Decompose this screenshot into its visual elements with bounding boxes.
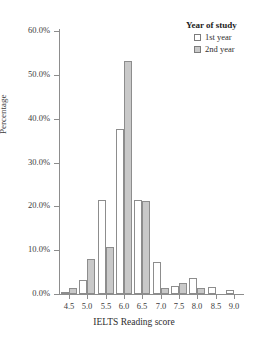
legend: Year of study 1st year2nd year: [186, 19, 262, 55]
legend-swatch-icon: [194, 46, 201, 53]
y-tick-label: 40.0%: [28, 113, 50, 124]
x-axis-label: IELTS Reading score: [0, 316, 268, 328]
y-tick-label: 0.0%: [32, 288, 50, 299]
bar: [106, 247, 114, 294]
bar: [142, 201, 150, 294]
y-tick-label: 60.0%: [28, 25, 50, 36]
bar: [98, 200, 106, 294]
bar: [79, 280, 87, 294]
legend-item: 1st year: [186, 32, 262, 43]
legend-label: 2nd year: [205, 44, 235, 55]
bar: [208, 287, 216, 294]
legend-entries: 1st year2nd year: [186, 32, 262, 55]
y-tick-label: 30.0%: [28, 157, 50, 168]
y-axis-label: Percentage: [0, 95, 9, 134]
bar: [61, 292, 69, 294]
x-tick-mark: [216, 294, 217, 299]
bar: [171, 286, 179, 294]
x-tick-mark: [69, 294, 70, 299]
plot-area: [60, 31, 243, 294]
bar: [179, 283, 187, 294]
legend-title: Year of study: [186, 19, 262, 31]
bar: [116, 129, 124, 294]
bar: [226, 290, 234, 294]
x-tick-mark: [179, 294, 180, 299]
legend-item: 2nd year: [186, 44, 262, 55]
y-tick-label: 10.0%: [28, 244, 50, 255]
bar: [134, 200, 142, 294]
bar: [87, 259, 95, 294]
chart-figure: 0.0%10.0%20.0%30.0%40.0%50.0%60.0% 4.55.…: [0, 0, 268, 345]
bar: [69, 288, 77, 294]
x-tick-mark: [124, 294, 125, 299]
x-tick-mark: [87, 294, 88, 299]
x-tick-label: 9.0: [221, 301, 247, 312]
cropped-title-fragment: [0, 0, 268, 5]
x-tick-mark: [106, 294, 107, 299]
x-tick-mark: [197, 294, 198, 299]
bar: [189, 278, 197, 294]
bar: [153, 262, 161, 294]
bar: [124, 61, 132, 294]
x-tick-mark: [142, 294, 143, 299]
bar: [197, 288, 205, 294]
y-tick: 0.0%: [54, 294, 60, 295]
x-tick-mark: [161, 294, 162, 299]
y-tick-label: 50.0%: [28, 69, 50, 80]
x-tick-mark: [234, 294, 235, 299]
legend-label: 1st year: [205, 32, 232, 43]
y-tick-label: 20.0%: [28, 200, 50, 211]
legend-swatch-icon: [194, 34, 201, 41]
bar: [161, 288, 169, 294]
